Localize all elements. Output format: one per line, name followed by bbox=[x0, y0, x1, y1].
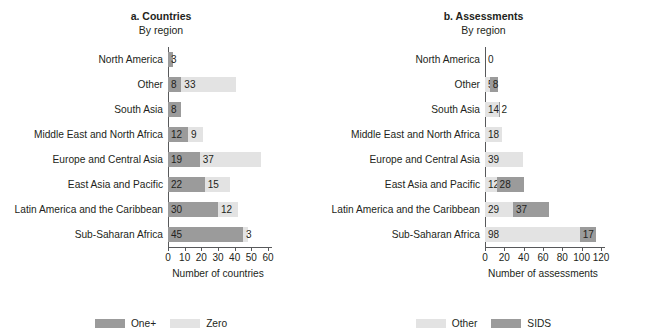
panel-countries: a. Countries By region North America3Oth… bbox=[0, 10, 322, 335]
bar-rows: North America0Other58South Asia142Middle… bbox=[322, 47, 645, 247]
legend-item: One+ bbox=[95, 318, 156, 329]
x-axis-tick bbox=[543, 247, 544, 251]
stacked-bar: 142 bbox=[485, 102, 645, 117]
bar-row: Sub-Saharan Africa453 bbox=[0, 222, 322, 247]
bar-segment-other: 12 bbox=[485, 177, 497, 192]
x-axis-tick-label: 30 bbox=[212, 253, 223, 263]
bar-value-label: 39 bbox=[488, 155, 499, 165]
category-label: Sub-Saharan Africa bbox=[322, 229, 485, 240]
x-axis-tick bbox=[235, 247, 236, 251]
panel-title: b. Assessments bbox=[322, 10, 645, 23]
bar-segment-zero: 33 bbox=[181, 77, 236, 92]
bar-value-label: 22 bbox=[171, 180, 182, 190]
bar-value-label: 19 bbox=[171, 155, 182, 165]
bar-value-label: 37 bbox=[516, 205, 527, 215]
bar-segment-other: 14 bbox=[485, 102, 499, 117]
bar-segment-zero: 12 bbox=[218, 202, 238, 217]
panel-title: a. Countries bbox=[0, 10, 322, 23]
bar-value-label: 28 bbox=[500, 180, 511, 190]
bar-value-label: 18 bbox=[488, 130, 499, 140]
bar-row: Europe and Central Asia39 bbox=[322, 147, 645, 172]
bar-segment-oneplus: 8 bbox=[168, 102, 181, 117]
x-axis: 0102030405060Number of countries bbox=[168, 247, 322, 277]
bar-value-label: 45 bbox=[171, 230, 182, 240]
category-label: North America bbox=[0, 54, 168, 65]
category-label: East Asia and Pacific bbox=[0, 179, 168, 190]
stacked-bar: 1228 bbox=[485, 177, 645, 192]
panel-subtitle: By region bbox=[0, 23, 322, 37]
x-axis-tick bbox=[582, 247, 583, 251]
plot-area: North America3Other833South Asia8Middle … bbox=[0, 47, 322, 247]
category-label: Middle East and North Africa bbox=[322, 129, 485, 140]
stacked-bar: 2215 bbox=[168, 177, 322, 192]
category-label: Latin America and the Caribbean bbox=[0, 204, 168, 215]
bar-value-label: 14 bbox=[488, 105, 499, 115]
x-axis-tick bbox=[562, 247, 563, 251]
stacked-bar: 58 bbox=[485, 77, 645, 92]
x-axis-title: Number of assessments bbox=[488, 268, 598, 279]
stacked-bar: 1937 bbox=[168, 152, 322, 167]
legend: OtherSIDS bbox=[322, 318, 645, 329]
bar-segment-sids: 28 bbox=[497, 177, 524, 192]
bar-value-label: 9 bbox=[191, 130, 197, 140]
x-axis-rule bbox=[168, 247, 272, 248]
x-axis: 020406080100120Number of assessments bbox=[485, 247, 645, 277]
category-label: Other bbox=[0, 79, 168, 90]
x-axis-tick bbox=[268, 247, 269, 251]
stacked-bar: 9817 bbox=[485, 227, 645, 242]
bar-segment-other: 18 bbox=[485, 127, 502, 142]
bar-value-label: 37 bbox=[203, 155, 214, 165]
bar-value-label: 8 bbox=[171, 80, 177, 90]
category-label: North America bbox=[322, 54, 485, 65]
bar-segment-sids: 17 bbox=[580, 227, 596, 242]
x-axis-tick-label: 40 bbox=[229, 253, 240, 263]
stacked-bar: 39 bbox=[485, 152, 645, 167]
x-axis-tick-label: 120 bbox=[593, 253, 610, 263]
bar-row: Middle East and North Africa18 bbox=[322, 122, 645, 147]
plot-area: North America0Other58South Asia142Middle… bbox=[322, 47, 645, 247]
panel-assessments: b. Assessments By region North America0O… bbox=[322, 10, 645, 335]
bar-row: Sub-Saharan Africa9817 bbox=[322, 222, 645, 247]
category-label: Middle East and North Africa bbox=[0, 129, 168, 140]
stacked-bar: 0 bbox=[485, 52, 645, 67]
bar-segment-oneplus: 22 bbox=[168, 177, 205, 192]
legend-label: Other bbox=[452, 318, 477, 329]
bar-segment-oneplus: 8 bbox=[168, 77, 181, 92]
x-axis-tick bbox=[168, 247, 169, 251]
category-label: Sub-Saharan Africa bbox=[0, 229, 168, 240]
category-label: East Asia and Pacific bbox=[322, 179, 485, 190]
category-label: South Asia bbox=[0, 104, 168, 115]
bar-value-label: 17 bbox=[583, 230, 594, 240]
x-axis-title: Number of countries bbox=[172, 268, 264, 279]
figure-canvas: a. Countries By region North America3Oth… bbox=[0, 0, 645, 335]
x-axis-tick bbox=[201, 247, 202, 251]
bar-value-label: 2 bbox=[502, 105, 508, 115]
bar-segment-oneplus: 45 bbox=[168, 227, 243, 242]
bar-row: Middle East and North Africa129 bbox=[0, 122, 322, 147]
bar-value-label: 98 bbox=[488, 230, 499, 240]
legend-swatch bbox=[491, 319, 521, 328]
stacked-bar: 833 bbox=[168, 77, 322, 92]
bar-segment-sids: 8 bbox=[490, 77, 498, 92]
bar-segment-sids: 37 bbox=[513, 202, 549, 217]
bar-value-label: 29 bbox=[488, 205, 499, 215]
stacked-bar: 8 bbox=[168, 102, 322, 117]
category-label: Europe and Central Asia bbox=[0, 154, 168, 165]
bar-row: Other833 bbox=[0, 72, 322, 97]
bar-segment-empty: 0 bbox=[485, 52, 499, 67]
bar-row: North America0 bbox=[322, 47, 645, 72]
category-label: Other bbox=[322, 79, 485, 90]
bar-value-label: 15 bbox=[208, 180, 219, 190]
bar-value-label: 30 bbox=[171, 205, 182, 215]
bar-row: South Asia142 bbox=[322, 97, 645, 122]
bar-value-label: 12 bbox=[221, 205, 232, 215]
panel-subtitle: By region bbox=[322, 23, 645, 37]
bar-rows: North America3Other833South Asia8Middle … bbox=[0, 47, 322, 247]
stacked-bar: 3012 bbox=[168, 202, 322, 217]
bar-value-label: 12 bbox=[171, 130, 182, 140]
legend: One+Zero bbox=[0, 318, 322, 329]
bar-segment-zero: 15 bbox=[205, 177, 230, 192]
x-axis-tick-label: 20 bbox=[196, 253, 207, 263]
x-axis-tick-label: 60 bbox=[262, 253, 273, 263]
bar-row: Latin America and the Caribbean2937 bbox=[322, 197, 645, 222]
